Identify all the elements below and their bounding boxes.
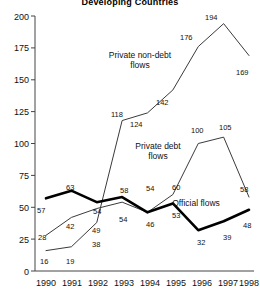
y-tick-label: 0 — [24, 267, 29, 277]
x-tick-label: 1993 — [114, 278, 134, 288]
point-label: 48 — [243, 221, 251, 230]
annotation-private-non-debt-flows-line2: flows — [130, 60, 149, 70]
x-tick-label: 1998 — [239, 278, 259, 288]
y-axis-ticks — [31, 16, 35, 271]
y-axis-labels: 200 175 150 125 100 75 50 25 0 — [14, 12, 29, 277]
point-label: 28 — [38, 233, 46, 242]
annotation-private-debt-flows: Private debt — [135, 141, 181, 151]
y-tick-label: 175 — [14, 43, 29, 53]
point-label: 54 — [119, 215, 127, 224]
x-tick-label: 1997 — [218, 278, 238, 288]
point-label: 49 — [92, 226, 100, 235]
line-chart-plot: 200 175 150 125 100 75 50 25 0 1990 1991… — [0, 0, 260, 292]
point-label: 53 — [172, 211, 180, 220]
point-label: 16 — [40, 257, 48, 266]
point-label: 169 — [236, 68, 249, 77]
x-tick-label: 1990 — [36, 278, 56, 288]
y-tick-label: 75 — [19, 171, 29, 181]
point-label: 105 — [219, 123, 232, 132]
point-label: 118 — [111, 110, 123, 119]
point-label: 194 — [205, 13, 218, 22]
y-tick-label: 50 — [19, 203, 29, 213]
x-axis-labels: 1990 1991 1992 1993 1994 1995 1996 1997 … — [36, 278, 259, 288]
y-tick-label: 200 — [14, 12, 29, 22]
annotation-official-flows: Official flows — [172, 198, 220, 208]
point-label: 100 — [191, 126, 204, 135]
point-label: 142 — [156, 98, 169, 107]
x-tick-label: 1991 — [62, 278, 82, 288]
x-tick-label: 1995 — [166, 278, 186, 288]
point-label: 38 — [92, 240, 100, 249]
point-label: 58 — [120, 186, 128, 195]
x-tick-label: 1992 — [88, 278, 108, 288]
point-label: 124 — [130, 120, 143, 129]
point-label: 63 — [66, 183, 74, 192]
annotation-private-non-debt-flows: Private non-debt — [109, 50, 172, 60]
x-tick-label: 1994 — [140, 278, 160, 288]
y-tick-label: 150 — [14, 75, 29, 85]
y-tick-label: 25 — [19, 235, 29, 245]
point-label: 46 — [146, 220, 154, 229]
chart-container: Developing Countries 200 175 150 125 100… — [0, 0, 260, 292]
point-label: 39 — [223, 233, 231, 242]
point-label: 57 — [37, 206, 45, 215]
point-label: 54 — [146, 184, 154, 193]
point-label: 60 — [172, 183, 180, 192]
point-label: 58 — [240, 185, 248, 194]
point-label: 19 — [66, 257, 74, 266]
point-label: 54 — [93, 207, 101, 216]
y-tick-label: 100 — [14, 139, 29, 149]
point-label: 176 — [180, 33, 193, 42]
point-label: 32 — [197, 238, 205, 247]
y-tick-label: 125 — [14, 107, 29, 117]
annotation-private-debt-flows-line2: flows — [148, 151, 167, 161]
x-tick-label: 1996 — [192, 278, 212, 288]
point-label: 42 — [66, 222, 74, 231]
